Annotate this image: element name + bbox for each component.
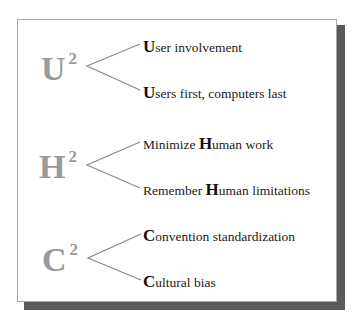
group-u-item-2: Users first, computers last (143, 84, 287, 101)
group-c-item-1: Convention standardization (143, 227, 295, 244)
group-h-item-2: Remember Human limitations (143, 181, 310, 198)
h-branch-icon (87, 142, 140, 188)
group-h-label: H2 (39, 150, 77, 184)
u-branch-icon (87, 44, 140, 90)
group-h-item-1: Minimize Human work (143, 135, 273, 152)
group-u-item-1: User involvement (143, 38, 242, 55)
group-c-item-2: Cultural bias (143, 273, 216, 290)
group-u-label: U2 (41, 52, 77, 86)
group-c-label: C2 (42, 243, 78, 277)
c-branch-icon (88, 234, 141, 280)
